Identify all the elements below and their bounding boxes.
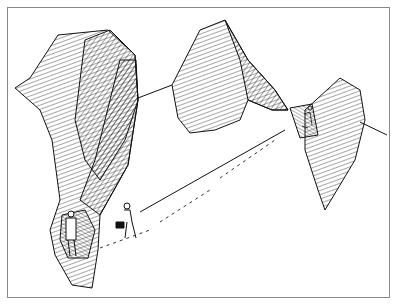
mountain-illustration	[0, 0, 398, 306]
ridge-line	[360, 122, 387, 135]
middle-peak	[172, 20, 288, 133]
ridge-line	[138, 85, 172, 98]
walking-figure	[116, 203, 136, 238]
rope	[140, 130, 285, 212]
right-peak	[290, 78, 365, 210]
left-peak	[15, 30, 138, 288]
